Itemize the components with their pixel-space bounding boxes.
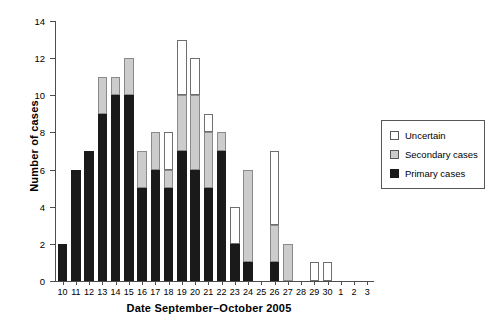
bar-segment-primary [204, 188, 214, 281]
legend-swatch-secondary-icon [390, 150, 399, 159]
x-tick-21 [208, 281, 209, 285]
x-tick-17 [155, 281, 156, 285]
bar-segment-primary [84, 151, 94, 281]
x-tick-20 [195, 281, 196, 285]
legend-item-uncertain: Uncertain [390, 128, 478, 143]
y-tick-label: 12 [5, 54, 45, 64]
bar-22 [217, 132, 227, 281]
bar-16 [137, 151, 147, 281]
bar-23 [230, 207, 240, 281]
legend-label-secondary: Secondary cases [405, 150, 478, 160]
bar-14 [111, 77, 121, 281]
bar-segment-secondary [270, 225, 280, 262]
y-tick-10 [50, 95, 55, 96]
x-tick-13 [102, 281, 103, 285]
legend-item-primary: Primary cases [390, 166, 478, 181]
y-tick-4 [50, 207, 55, 208]
bar-segment-uncertain [204, 114, 214, 133]
bar-segment-secondary [243, 170, 253, 263]
bar-segment-primary [58, 244, 68, 281]
y-tick-label: 2 [5, 240, 45, 250]
y-tick-label: 0 [5, 277, 45, 287]
bar-segment-primary [190, 170, 200, 281]
bar-segment-primary [230, 244, 240, 281]
x-tick-25 [261, 281, 262, 285]
y-tick-6 [50, 170, 55, 171]
epidemic-curve-figure: Number of cases Date September–October 2… [0, 0, 494, 325]
bar-segment-secondary [283, 244, 293, 281]
y-tick-label: 14 [5, 17, 45, 27]
bar-13 [98, 77, 108, 281]
bar-segment-uncertain [164, 132, 174, 169]
x-tick-2 [354, 281, 355, 285]
x-tick-1 [341, 281, 342, 285]
bar-segment-secondary [190, 95, 200, 169]
y-tick-label: 8 [5, 128, 45, 138]
x-tick-16 [142, 281, 143, 285]
x-tick-19 [182, 281, 183, 285]
bar-segment-uncertain [310, 262, 320, 281]
bar-19 [177, 40, 187, 281]
x-tick-28 [301, 281, 302, 285]
bar-segment-primary [111, 95, 121, 281]
x-tick-22 [222, 281, 223, 285]
x-tick-27 [288, 281, 289, 285]
bar-21 [204, 114, 214, 281]
x-tick-10 [63, 281, 64, 285]
y-tick-label: 10 [5, 91, 45, 101]
bar-segment-secondary [137, 151, 147, 188]
x-tick-23 [235, 281, 236, 285]
bar-segment-primary [270, 262, 280, 281]
x-tick-26 [275, 281, 276, 285]
bar-segment-uncertain [177, 40, 187, 96]
bar-segment-primary [217, 151, 227, 281]
bar-segment-primary [71, 170, 81, 281]
legend-swatch-primary-icon [390, 169, 399, 178]
y-tick-12 [50, 58, 55, 59]
legend-label-uncertain: Uncertain [405, 131, 446, 141]
bar-segment-primary [164, 188, 174, 281]
legend-item-secondary: Secondary cases [390, 147, 478, 162]
x-tick-18 [169, 281, 170, 285]
bar-segment-secondary [204, 132, 214, 188]
x-axis-label: Date September–October 2005 [44, 302, 374, 314]
bar-18 [164, 132, 174, 281]
bar-segment-primary [137, 188, 147, 281]
x-tick-3 [367, 281, 368, 285]
x-tick-14 [116, 281, 117, 285]
y-tick-label: 4 [5, 203, 45, 213]
bar-12 [84, 151, 94, 281]
bar-15 [124, 58, 134, 281]
bar-11 [71, 170, 81, 281]
bar-segment-uncertain [323, 262, 333, 281]
bar-segment-uncertain [270, 151, 280, 225]
bar-24 [243, 170, 253, 281]
bar-segment-secondary [111, 77, 121, 96]
bar-segment-primary [243, 262, 253, 281]
bar-29 [310, 262, 320, 281]
bar-segment-secondary [151, 132, 161, 169]
bar-17 [151, 132, 161, 281]
bar-26 [270, 151, 280, 281]
x-tick-30 [328, 281, 329, 285]
x-tick-label: 3 [357, 288, 377, 297]
y-tick-8 [50, 132, 55, 133]
bar-20 [190, 58, 200, 281]
legend-label-primary: Primary cases [405, 169, 465, 179]
chart-legend: Uncertain Secondary cases Primary cases [381, 120, 485, 189]
bar-27 [283, 244, 293, 281]
bar-segment-secondary [217, 132, 227, 151]
x-tick-11 [76, 281, 77, 285]
legend-swatch-uncertain-icon [390, 131, 399, 140]
x-tick-12 [89, 281, 90, 285]
bar-10 [58, 244, 68, 281]
bar-segment-uncertain [230, 207, 240, 244]
bar-segment-secondary [124, 58, 134, 95]
y-tick-2 [50, 244, 55, 245]
plot-area [56, 21, 374, 281]
bar-segment-secondary [164, 170, 174, 189]
y-tick-label: 6 [5, 166, 45, 176]
bar-segment-secondary [177, 95, 187, 151]
bar-segment-uncertain [190, 58, 200, 95]
bar-segment-primary [177, 151, 187, 281]
